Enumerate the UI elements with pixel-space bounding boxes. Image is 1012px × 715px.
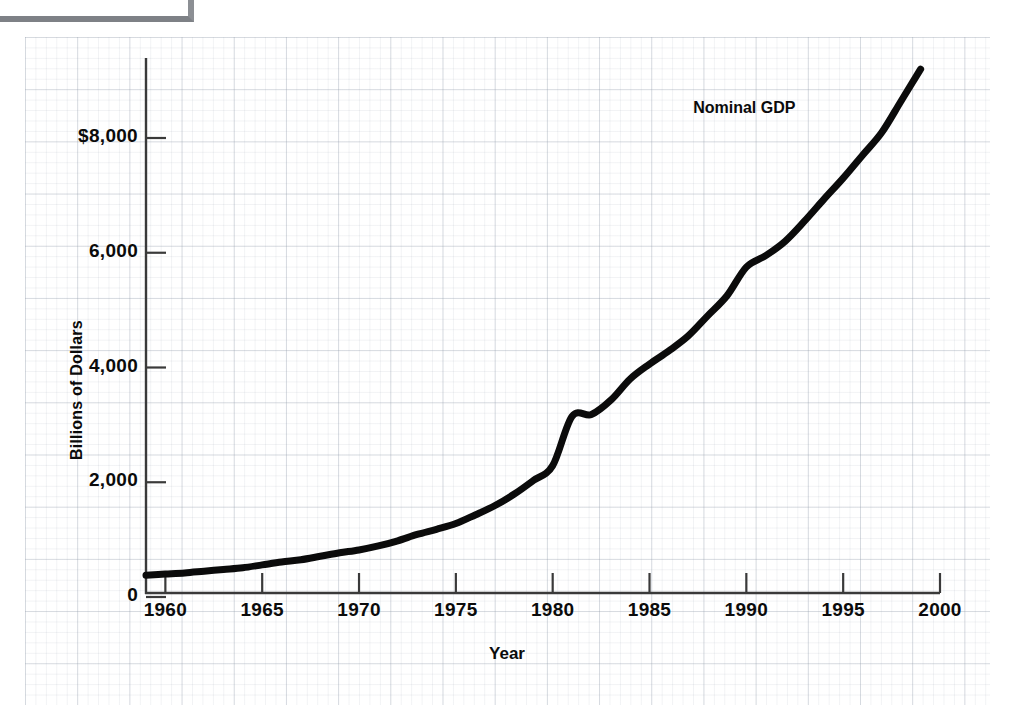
x-tick-label: 1980 <box>508 599 598 621</box>
x-tick-label: 1965 <box>217 599 307 621</box>
x-axis-ticks <box>165 573 940 593</box>
y-tick-label: 6,000 <box>0 240 138 262</box>
axis-lines <box>145 58 940 594</box>
x-tick-label: 1975 <box>411 599 501 621</box>
y-tick-label: 2,000 <box>0 469 138 491</box>
y-tick-label: 0 <box>0 584 138 606</box>
x-tick-label: 1970 <box>314 599 404 621</box>
x-axis-title: Year <box>452 644 562 664</box>
nominal-gdp-line <box>146 69 921 575</box>
x-tick-label: 1990 <box>701 599 791 621</box>
x-tick-label: 2000 <box>895 599 985 621</box>
y-axis-title: Billions of Dollars <box>68 320 86 460</box>
y-axis-ticks <box>146 138 166 597</box>
chart-figure: 02,0004,0006,000$8,000 19601965197019751… <box>0 0 1012 715</box>
x-tick-label: 1995 <box>798 599 888 621</box>
data-series-group <box>146 69 921 575</box>
y-tick-label: $8,000 <box>0 125 138 147</box>
x-tick-label: 1960 <box>120 599 210 621</box>
nominal-gdp-series-label: Nominal GDP <box>693 99 795 117</box>
x-tick-label: 1985 <box>605 599 695 621</box>
